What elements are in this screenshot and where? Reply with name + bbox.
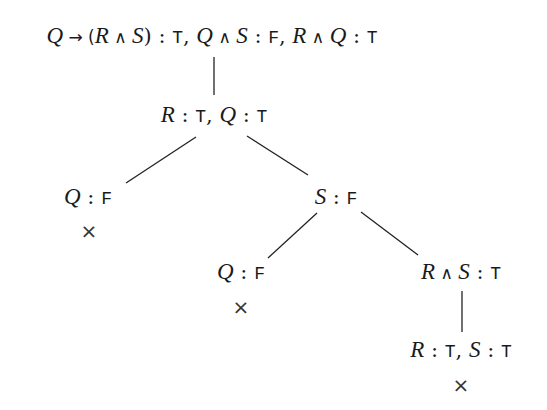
prop-s: S [132,23,144,48]
separator: : [470,260,490,284]
prop-s: S [458,259,470,284]
prop-r: R [292,23,306,48]
closed-branch-icon: × [233,295,250,319]
prop-s: S [236,23,248,48]
prop-q: Q [217,259,234,284]
closed-branch-icon: × [81,219,98,243]
separator: : [236,103,256,127]
truth-value: F [254,264,265,284]
truth-value: F [268,28,279,48]
edge-n3-n4 [268,213,317,258]
prop-r: R [410,337,424,362]
truth-value: T [367,28,378,48]
truth-value: T [172,28,183,48]
and-operator: ∧ [109,27,132,47]
truth-value: T [256,107,267,127]
separator: ) : [144,24,173,48]
node-root: Q → (R ∧ S) : T, Q ∧ S : F, R ∧ Q : T [46,24,377,50]
node-n6: R : T, S : T [410,338,511,364]
prop-q: Q [330,23,347,48]
separator: : [81,185,101,209]
truth-value: F [101,189,112,209]
edge-n1-n2 [126,137,196,183]
truth-value: T [445,342,456,362]
separator: : [424,338,444,362]
prop-s: S [469,337,481,362]
truth-value: T [195,107,206,127]
prop-q: Q [46,23,63,48]
implies-operator: → ( [63,27,95,47]
separator: : [234,260,254,284]
node-n1: R : T, Q : T [161,103,268,129]
separator: : [480,338,500,362]
node-n3: S : F [315,185,358,211]
node-n2: Q : F [64,185,112,211]
truth-value: T [501,342,512,362]
separator: : [248,24,268,48]
prop-r: R [95,23,109,48]
and-operator: ∧ [213,27,236,47]
truth-value: T [490,264,501,284]
prop-q: Q [196,23,213,48]
separator: , [183,24,196,48]
node-n5: R ∧ S : T [421,260,501,286]
node-n4: Q : F [217,260,265,286]
prop-r: R [161,102,175,127]
and-operator: ∧ [435,263,458,283]
edge-n3-n5 [361,212,418,255]
separator: : [346,24,366,48]
separator: : [175,103,195,127]
separator: : [326,185,346,209]
prop-q: Q [64,184,81,209]
and-operator: ∧ [306,27,329,47]
closed-branch-icon: × [453,373,470,397]
truth-value: F [347,189,358,209]
edge-n1-n3 [247,136,308,175]
prop-r: R [421,259,435,284]
prop-q: Q [219,102,236,127]
prop-s: S [315,184,327,209]
separator: , [206,103,219,127]
separator: , [279,24,292,48]
separator: , [456,338,469,362]
